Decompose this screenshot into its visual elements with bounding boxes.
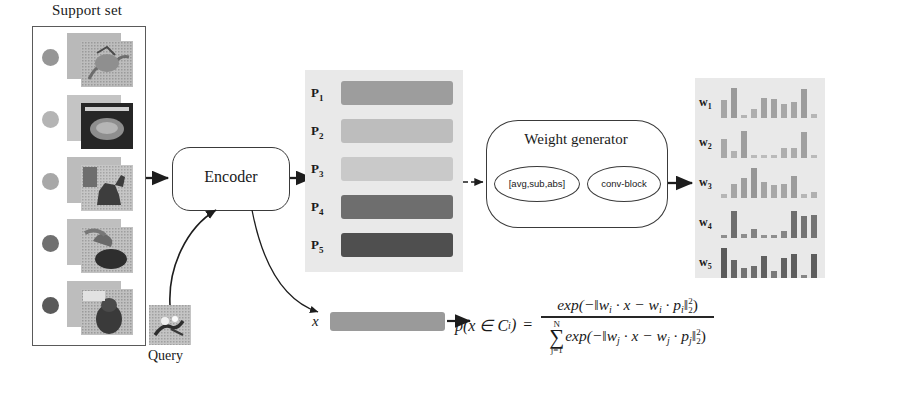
prototype-label-sub-5: 5 (319, 245, 324, 255)
prototype-label-sub-1: 1 (319, 93, 324, 103)
formula-denominator: N∑j=1exp(−‖wj · x − wj · pj‖22) (541, 318, 714, 355)
weight-label-text-2: w (699, 135, 708, 149)
weight-label-2: w2 (699, 135, 712, 151)
bar (781, 184, 787, 198)
bar (791, 176, 797, 198)
sigma-symbol: ∑ (549, 329, 564, 346)
conv-block-module[interactable]: conv-block (587, 166, 661, 202)
sigma-bottom: j=1 (551, 346, 563, 355)
bar (791, 148, 797, 158)
prototype-row-4: P4 (305, 190, 463, 224)
weight-row-2: w2 (695, 122, 825, 162)
weight-barchart-5 (721, 246, 821, 278)
prototype-bar-2 (341, 119, 453, 143)
prototype-label-text-1: P (311, 85, 319, 100)
weight-label-1: w1 (699, 95, 712, 111)
prototype-label-text-4: P (311, 199, 319, 214)
bar (731, 151, 737, 158)
bar (801, 216, 807, 238)
weight-label-text-1: w (699, 95, 708, 109)
weight-row-5: w5 (695, 242, 825, 282)
prototype-bar-1 (341, 81, 453, 105)
weight-label-text-5: w (699, 255, 708, 269)
bar (811, 192, 817, 198)
weight-generator-title: Weight generator (486, 131, 666, 148)
prototype-label-text-5: P (311, 237, 319, 252)
prototype-label-2: P2 (311, 123, 323, 141)
formula-lhs: p(x ∈ C (455, 316, 508, 335)
formula-lhs-end: ) (511, 316, 516, 334)
formula-row: p(x ∈ Ci) = exp(−‖wi · x − wi · pi‖22) N… (455, 296, 716, 355)
bar (731, 88, 737, 118)
avg-sub-abs-label: [avg,sub,abs] (495, 167, 579, 201)
prototype-panel: P1 P2 P3 P4 P5 (305, 70, 463, 272)
bar (771, 99, 777, 118)
formula-equals: = (523, 316, 532, 334)
weight-label-4: w4 (699, 215, 712, 231)
weight-label-sub-4: 4 (708, 222, 712, 231)
bar (741, 131, 747, 158)
prototype-row-2: P2 (305, 114, 463, 148)
bar (801, 194, 807, 198)
bar (761, 235, 767, 238)
bar (781, 231, 787, 238)
prototype-label-5: P5 (311, 237, 323, 255)
weight-barchart-2 (721, 126, 821, 158)
bar (801, 89, 807, 118)
weight-label-3: w3 (699, 175, 712, 191)
classification-formula: p(x ∈ Ci) = exp(−‖wi · x − wi · pi‖22) N… (455, 296, 716, 355)
bar (771, 155, 777, 158)
bar (791, 254, 797, 278)
formula-numerator: exp(−‖wi · x − wi · pi‖22) (549, 296, 706, 316)
prototype-bar-3 (341, 157, 453, 181)
bar (761, 98, 767, 118)
num-text-3: · p (662, 296, 681, 313)
bar (751, 168, 757, 198)
bar (781, 258, 787, 278)
prototype-bar-5 (341, 233, 453, 257)
bar (761, 155, 767, 158)
bar (741, 234, 747, 238)
weight-row-3: w3 (695, 162, 825, 202)
bar (761, 256, 767, 278)
sigma-group: N∑j=1 (549, 320, 564, 355)
num-text-2: · x − w (612, 296, 659, 313)
prototype-label-4: P4 (311, 199, 323, 217)
weight-label-text-3: w (699, 175, 708, 189)
prototype-row-5: P5 (305, 228, 463, 262)
bar (771, 235, 777, 238)
bar (781, 104, 787, 118)
bar (721, 194, 727, 198)
prototype-row-3: P3 (305, 152, 463, 186)
bar (721, 139, 727, 158)
bar (741, 115, 747, 118)
bar (771, 271, 777, 278)
bar (811, 254, 817, 278)
bar (771, 185, 777, 198)
bar (751, 229, 757, 238)
den-text-2: · x − w (620, 327, 667, 344)
prototype-label-sub-3: 3 (319, 169, 324, 179)
weight-barchart-3 (721, 166, 821, 198)
bar (731, 184, 737, 198)
bar (801, 275, 807, 278)
avg-sub-abs-module[interactable]: [avg,sub,abs] (494, 166, 580, 202)
bar (811, 155, 817, 158)
weight-panel: w1 w2 (695, 78, 825, 278)
bar (761, 182, 767, 198)
bar (721, 248, 727, 278)
prototype-label-3: P3 (311, 161, 323, 179)
prototype-label-sub-2: 2 (319, 131, 324, 141)
weight-row-4: w4 (695, 202, 825, 242)
bar (781, 148, 787, 158)
den-text-1: exp(−‖w (565, 327, 617, 344)
weight-label-sub-1: 1 (708, 102, 712, 111)
weight-label-sub-2: 2 (708, 142, 712, 151)
prototype-label-sub-4: 4 (319, 207, 324, 217)
arrow-query-to-encoder (170, 210, 216, 305)
prototype-label-text-3: P (311, 161, 319, 176)
num-text-1: exp(−‖w (557, 296, 609, 313)
weight-row-1: w1 (695, 82, 825, 122)
bar (741, 178, 747, 198)
prototype-label-text-2: P (311, 123, 319, 138)
